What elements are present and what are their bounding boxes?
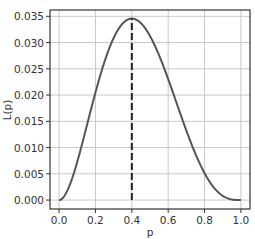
likelihood-curve	[59, 19, 241, 200]
x-tick-label: 0.4	[123, 214, 140, 226]
y-axis-label: L(p)	[1, 100, 13, 121]
y-tick-label: 0.000	[14, 194, 44, 206]
x-tick-labels: 0.00.20.40.60.81.0	[51, 214, 250, 226]
x-tick-label: 0.6	[160, 214, 177, 226]
y-tick-label: 0.025	[14, 63, 44, 75]
y-tick-label: 0.005	[14, 168, 44, 180]
grid-lines	[50, 10, 250, 209]
y-tick-label: 0.010	[14, 142, 44, 154]
x-axis-label: p	[147, 226, 154, 238]
likelihood-chart: 0.0000.0050.0100.0150.0200.0250.0300.035…	[0, 0, 255, 239]
y-tick-label: 0.035	[14, 10, 44, 22]
y-tick-label: 0.020	[14, 89, 44, 101]
plot-frame	[50, 10, 250, 209]
x-tick-label: 0.8	[196, 214, 213, 226]
y-tick-label: 0.030	[14, 37, 44, 49]
x-tick-label: 1.0	[233, 214, 250, 226]
y-tick-label: 0.015	[14, 115, 44, 127]
y-tick-labels: 0.0000.0050.0100.0150.0200.0250.0300.035	[14, 10, 44, 206]
x-tick-label: 0.0	[51, 214, 68, 226]
x-tick-label: 0.2	[87, 214, 104, 226]
